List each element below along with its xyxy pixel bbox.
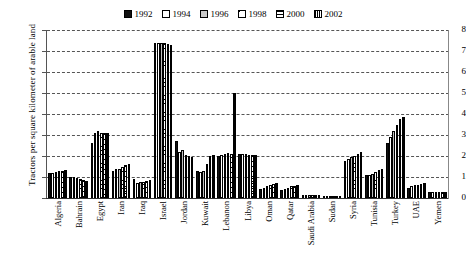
x-label-cell: Jordan [174,200,195,260]
bar-group-jordan [174,30,195,198]
x-tick-label-egypt: Egypt [95,201,104,221]
gray-swatch [200,10,208,18]
legend-item-1992[interactable]: 1992 [124,9,153,19]
x-label-cell: Kuwait [195,200,216,260]
y-axis-title: Tractors per square kilometer of arable … [27,10,37,200]
x-label-cell: Iraq [131,200,152,260]
bar-yemen-2002[interactable] [444,192,447,198]
bar-group-libya [237,30,258,198]
bar-israel-2002[interactable] [170,45,173,198]
x-tick-label-israel: Israel [159,201,168,220]
bar-group-sudan [321,30,342,198]
x-label-cell: Qatar [279,200,300,260]
diagonal-hatch-swatch [238,10,246,18]
bar-lebanon-2002[interactable] [233,93,236,198]
chart-legend: 199219941996199820002002 [0,9,466,19]
x-tick-label-syria: Syria [349,201,358,219]
x-label-cell: Algeria [47,200,68,260]
legend-label: 1998 [249,9,267,19]
bar-syria-2002[interactable] [360,152,363,198]
bar-iran-2002[interactable] [128,164,131,198]
bar-group-egypt [89,30,110,198]
bar-group-saudi-arabia [300,30,321,198]
bar-iraq-2002[interactable] [149,180,152,198]
bar-egypt-2002[interactable] [106,133,109,198]
x-tick-label-lebanon: Lebanon [222,201,231,231]
x-label-cell: Tunisia [364,200,385,260]
x-tick-label-turkey: Turkey [391,201,400,225]
x-tick-label-libya: Libya [243,201,252,221]
x-axis-line [46,198,449,199]
bar-group-israel [153,30,174,198]
bar-group-yemen [427,30,448,198]
legend-item-1998[interactable]: 1998 [238,9,267,19]
bar-group-turkey [385,30,406,198]
x-tick-label-algeria: Algeria [53,201,62,227]
bar-kuwait-2002[interactable] [212,155,215,198]
x-label-cell: Syria [343,200,364,260]
bar-algeria-2002[interactable] [64,170,67,198]
x-tick-label-jordan: Jordan [180,201,189,224]
x-label-cell: Saudi Arabia [300,200,321,260]
x-tick-label-qatar: Qatar [285,201,294,220]
bar-group-syria [343,30,364,198]
bar-tunisia-2002[interactable] [381,169,384,198]
x-tick-label-yemen: Yemen [433,201,442,225]
x-tick-label-sudan: Sudan [327,201,336,222]
bar-group-kuwait [195,30,216,198]
bar-groups [47,30,448,198]
vertical-hatch-swatch [314,10,322,18]
x-label-cell: Sudan [321,200,342,260]
bar-group-iraq [131,30,152,198]
plot-right-border [448,30,449,199]
x-label-cell: Oman [258,200,279,260]
solid-black-swatch [124,10,132,18]
bar-group-oman [258,30,279,198]
x-label-cell: Yemen [427,200,448,260]
bar-oman-2002[interactable] [275,183,278,198]
x-tick-label-iraq: Iraq [137,201,146,215]
bar-group-qatar [279,30,300,198]
x-label-cell: Iran [110,200,131,260]
bar-qatar-2002[interactable] [296,185,299,198]
x-label-cell: Israel [153,200,174,260]
x-tick-label-kuwait: Kuwait [201,201,210,226]
x-tick-label-oman: Oman [264,201,273,222]
legend-item-1994[interactable]: 1994 [162,9,191,19]
x-tick-label-tunisia: Tunisia [370,201,379,226]
legend-item-1996[interactable]: 1996 [200,9,229,19]
legend-item-2002[interactable]: 2002 [314,9,343,19]
bar-jordan-2002[interactable] [191,157,194,198]
bar-sudan-2002[interactable] [339,196,342,198]
legend-label: 2000 [287,9,305,19]
horizontal-hatch-swatch [276,10,284,18]
legend-label: 1996 [211,9,229,19]
legend-item-2000[interactable]: 2000 [276,9,305,19]
bar-group-algeria [47,30,68,198]
legend-label: 1994 [173,9,191,19]
bar-uae-2002[interactable] [423,183,426,198]
bar-group-uae [406,30,427,198]
bar-turkey-2002[interactable] [402,117,405,198]
x-label-cell: Egypt [89,200,110,260]
bar-saudi-arabia-2002[interactable] [318,195,321,198]
x-label-cell: Bahrain [68,200,89,260]
x-label-cell: UAE [406,200,427,260]
x-axis-labels: AlgeriaBahrainEgyptIranIraqIsraelJordanK… [47,200,448,260]
x-tick-label-iran: Iran [116,201,125,215]
bar-group-lebanon [216,30,237,198]
x-label-cell: Libya [237,200,258,260]
x-label-cell: Turkey [385,200,406,260]
x-label-cell: Lebanon [216,200,237,260]
legend-label: 1992 [135,9,153,19]
bar-libya-2002[interactable] [254,155,257,198]
chart-figure: 199219941996199820002002 Tractors per sq… [0,0,466,262]
bar-group-iran [110,30,131,198]
legend-label: 2002 [325,9,343,19]
x-tick-label-saudi-arabia: Saudi Arabia [306,201,315,245]
white-swatch [162,10,170,18]
bar-group-bahrain [68,30,89,198]
x-tick-label-uae: UAE [412,201,421,218]
x-tick-label-bahrain: Bahrain [74,201,83,228]
bar-bahrain-2002[interactable] [85,181,88,198]
